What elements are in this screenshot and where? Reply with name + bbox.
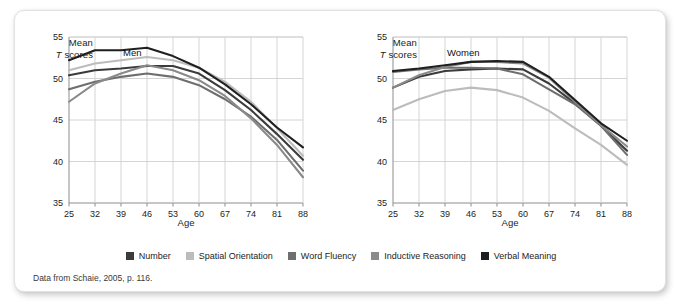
legend-item: Inductive Reasoning (371, 251, 466, 261)
x-tick-label: 88 (622, 209, 632, 219)
y-axis-title-line1: Mean (69, 37, 93, 48)
y-axis-title-women: Mean T scores (355, 37, 417, 60)
legend-item: Word Fluency (288, 251, 356, 261)
y-tick-label: 45 (53, 115, 63, 125)
chart-legend: NumberSpatial OrientationWord FluencyInd… (15, 251, 667, 261)
x-axis-label-women: Age (480, 217, 540, 228)
legend-swatch-icon (371, 252, 379, 260)
x-tick-label: 39 (116, 209, 126, 219)
series-line (393, 88, 627, 165)
x-tick-label: 32 (90, 209, 100, 219)
x-tick-label: 32 (414, 209, 424, 219)
x-axis-label-men: Age (156, 217, 216, 228)
panel-title-men: Men (123, 47, 141, 58)
x-tick-label: 74 (246, 209, 256, 219)
y-tick-label: 40 (377, 157, 387, 167)
x-tick-label: 25 (64, 209, 74, 219)
x-tick-label: 67 (544, 209, 554, 219)
y-axis-title-scores: scores (386, 49, 417, 60)
y-tick-label: 35 (53, 198, 63, 208)
legend-item: Verbal Meaning (481, 251, 557, 261)
legend-swatch-icon (186, 252, 194, 260)
y-tick-label: 50 (377, 74, 387, 84)
x-tick-label: 81 (272, 209, 282, 219)
legend-label: Inductive Reasoning (384, 251, 466, 261)
x-tick-label: 46 (142, 209, 152, 219)
legend-item: Spatial Orientation (186, 251, 273, 261)
source-note: Data from Schaie, 2005, p. 116. (33, 273, 152, 283)
figure-card: Mean T scores 35404550552532394653606774… (14, 10, 666, 292)
y-tick-label: 50 (53, 74, 63, 84)
legend-label: Number (139, 251, 171, 261)
x-tick-label: 39 (440, 209, 450, 219)
x-tick-label: 81 (596, 209, 606, 219)
legend-label: Verbal Meaning (494, 251, 557, 261)
x-tick-label: 46 (466, 209, 476, 219)
legend-label: Word Fluency (301, 251, 356, 261)
y-tick-label: 40 (53, 157, 63, 167)
x-tick-label: 74 (570, 209, 580, 219)
chart-panel-women: Mean T scores 35404550552532394653606774… (345, 25, 635, 230)
legend-swatch-icon (126, 252, 134, 260)
legend-label: Spatial Orientation (199, 251, 273, 261)
x-tick-label: 67 (220, 209, 230, 219)
legend-swatch-icon (481, 252, 489, 260)
x-tick-label: 25 (388, 209, 398, 219)
y-axis-title-scores: scores (62, 49, 93, 60)
series-line (393, 68, 627, 155)
series-line (69, 57, 303, 156)
y-tick-label: 35 (377, 198, 387, 208)
y-tick-label: 45 (377, 115, 387, 125)
panel-title-women: Women (447, 47, 480, 58)
y-axis-title-line1: Mean (393, 37, 417, 48)
x-tick-label: 88 (298, 209, 308, 219)
legend-item: Number (126, 251, 171, 261)
legend-swatch-icon (288, 252, 296, 260)
series-line (69, 74, 303, 171)
y-axis-title-men: Mean T scores (31, 37, 93, 60)
chart-panel-men: Mean T scores 35404550552532394653606774… (21, 25, 311, 230)
